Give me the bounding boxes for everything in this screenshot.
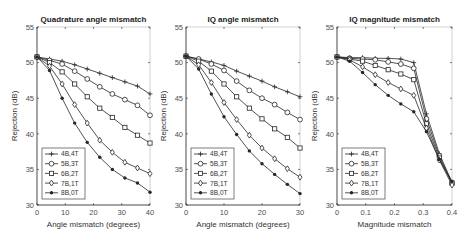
asterisk-marker [235,133,238,136]
asterisk-marker [399,102,402,105]
circle-marker [72,69,77,74]
y-tick-label: 35 [26,165,34,174]
square-marker [247,106,251,110]
legend-label: 6B,2T [61,170,79,177]
y-tick-label: 55 [175,23,183,32]
circle-marker [110,92,115,97]
asterisk-marker [386,94,389,97]
legend-label: 4B,4T [61,150,79,157]
square-marker [273,127,277,131]
y-tick-label: 40 [175,130,183,139]
square-marker [399,72,403,76]
square-marker [98,106,102,110]
square-marker [60,70,64,74]
subplot-2: 0102030303540455055IQ angle mismatchAngl… [159,15,304,229]
circle-marker [247,88,252,93]
legend-label: 4B,4T [361,150,379,157]
circle-marker [135,103,140,108]
legend: 4B,4T5B,3T6B,2T7B,1T8B,0T [42,148,85,199]
x-tick-label: 0.3 [418,208,428,217]
y-axis-label: Rejection (dB) [310,90,319,141]
square-icon [49,171,53,175]
x-tick-label: 0 [35,208,39,217]
square-marker [386,68,390,72]
square-marker [148,141,152,145]
circle-marker [285,110,290,115]
legend-label: 5B,3T [361,160,379,167]
x-tick-label: 10 [61,208,69,217]
square-marker [135,133,139,137]
circle-icon [49,161,54,166]
circle-marker [122,97,127,102]
asterisk-marker [298,192,301,195]
figure: 010203040303540455055Quadrature angle mi… [0,0,473,243]
y-axis-label: Rejection (dB) [10,90,19,141]
asterisk-marker [222,115,225,118]
asterisk-marker [348,59,351,62]
x-axis-label: Angle mismatch (degrees) [196,220,290,229]
square-marker [412,78,416,82]
x-tick-label: 0 [184,208,188,217]
circle-marker [373,57,378,62]
x-tick-label: 0.1 [361,208,371,217]
y-tick-label: 50 [26,58,34,67]
square-marker [85,95,89,99]
legend-label: 8B,0T [61,189,79,196]
legend-label: 6B,2T [210,170,228,177]
asterisk-marker [148,190,151,193]
x-tick-label: 40 [146,208,154,217]
asterisk-marker [111,168,114,171]
legend-label: 5B,3T [210,160,228,167]
y-tick-label: 45 [326,94,334,103]
circle-marker [298,117,303,122]
y-tick-label: 35 [175,165,183,174]
square-icon [198,171,202,175]
legend-label: 7B,1T [210,180,228,187]
x-tick-label: 30 [118,208,126,217]
x-tick-label: 20 [89,208,97,217]
legend-label: 5B,3T [61,160,79,167]
circle-marker [209,62,214,67]
asterisk-icon [50,191,53,194]
chart-title: Quadrature angle mismatch [41,15,147,24]
subplot-1: 010203040303540455055Quadrature angle mi… [10,15,154,229]
square-marker [360,59,364,63]
asterisk-marker [136,181,139,184]
y-axis-label: Rejection (dB) [159,90,168,141]
asterisk-marker [450,180,453,183]
chart-title: IQ angle mismatch [207,15,278,24]
chart-title: IQ magnitude mismatch [349,15,440,24]
x-tick-label: 20 [258,208,266,217]
x-tick-label: 0 [335,208,339,217]
asterisk-marker [260,162,263,165]
legend-label: 4B,4T [210,150,228,157]
legend-label: 8B,0T [210,189,228,196]
circle-marker [260,96,265,101]
x-tick-label: 10 [220,208,228,217]
y-tick-label: 50 [326,58,334,67]
square-marker [222,82,226,86]
square-marker [285,135,289,139]
asterisk-marker [73,121,76,124]
asterisk-marker [98,156,101,159]
asterisk-marker [425,130,428,133]
y-tick-label: 40 [326,130,334,139]
circle-marker [148,113,153,118]
x-tick-label: 0.2 [389,208,399,217]
legend-label: 6B,2T [361,170,379,177]
asterisk-marker [412,110,415,113]
asterisk-marker [35,55,38,58]
asterisk-marker [248,149,251,152]
circle-marker [386,59,391,64]
y-tick-label: 45 [175,94,183,103]
asterisk-icon [350,191,353,194]
asterisk-marker [374,83,377,86]
square-icon [349,171,353,175]
legend-label: 7B,1T [61,180,79,187]
subplot-3: 00.10.20.30.4303540455055IQ magnitude mi… [310,15,457,229]
y-tick-label: 45 [26,94,34,103]
x-tick-label: 30 [296,208,304,217]
x-tick-label: 0.4 [447,208,457,217]
circle-icon [198,161,203,166]
asterisk-marker [335,55,338,58]
